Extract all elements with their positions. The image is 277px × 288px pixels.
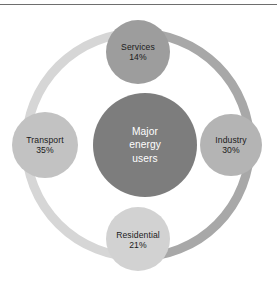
hub-label-line2: energy	[129, 138, 161, 151]
node-circle-transport[interactable]	[12, 112, 78, 178]
node-circle-residential[interactable]	[106, 207, 170, 271]
node-circle-services[interactable]	[106, 20, 170, 84]
energy-users-diagram: Major energy users Services 14% Industry…	[0, 0, 277, 288]
hub-label: Major energy users	[129, 125, 161, 165]
node-circle-industry[interactable]	[200, 114, 262, 176]
hub-label-line3: users	[129, 152, 161, 165]
hub-label-line1: Major	[129, 125, 161, 138]
